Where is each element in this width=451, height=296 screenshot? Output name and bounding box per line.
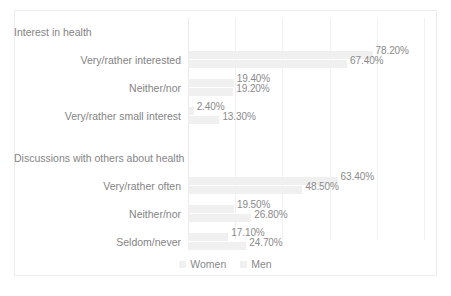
chart-group-row: Interest in health	[188, 18, 424, 46]
chart-group-row: Discussions with others about health	[188, 144, 424, 172]
bar-men	[188, 214, 251, 222]
data-label-women: 2.40%	[197, 101, 225, 112]
legend-item-men[interactable]: Men	[240, 258, 271, 270]
chart-rows: Interest in healthVery/rather interested…	[188, 18, 424, 240]
bar-pair: 17.10%24.70%	[188, 228, 424, 256]
data-label-men: 19.20%	[236, 83, 269, 94]
chart-data-row: Neither/nor19.50%26.80%	[188, 200, 424, 228]
gridline-100	[424, 18, 425, 240]
category-label: Very/rather often	[103, 172, 188, 200]
chart-data-row: Very/rather small interest2.40%13.30%	[188, 102, 424, 130]
group-label: Discussions with others about health	[14, 144, 184, 172]
bar-men	[188, 186, 302, 194]
group-label: Interest in health	[14, 18, 92, 46]
plot-area: Interest in healthVery/rather interested…	[188, 18, 424, 240]
bar-men	[188, 60, 347, 68]
category-label: Very/rather small interest	[65, 102, 188, 130]
legend-swatch-icon	[179, 261, 186, 268]
bar-pair: 63.40%48.50%	[188, 172, 424, 200]
chart-data-row: Seldom/never17.10%24.70%	[188, 228, 424, 256]
data-label-men: 13.30%	[222, 111, 255, 122]
chart-data-row: Very/rather often63.40%48.50%	[188, 172, 424, 200]
legend-label: Men	[251, 258, 271, 270]
legend-label: Women	[190, 258, 226, 270]
category-label: Neither/nor	[129, 74, 188, 102]
bar-women	[188, 233, 228, 241]
bar-women	[188, 107, 194, 115]
chart-data-row: Very/rather interested78.20%67.40%	[188, 46, 424, 74]
chart-legend: WomenMen	[0, 258, 451, 270]
legend-swatch-icon	[240, 261, 247, 268]
bar-chart: Interest in healthVery/rather interested…	[0, 0, 451, 296]
data-label-men: 26.80%	[254, 209, 287, 220]
category-label: Very/rather interested	[81, 46, 188, 74]
bar-pair: 19.50%26.80%	[188, 200, 424, 228]
data-label-men: 24.70%	[249, 237, 282, 248]
bar-women	[188, 79, 234, 87]
bar-men	[188, 88, 233, 96]
data-label-women: 63.40%	[341, 171, 374, 182]
bar-pair: 2.40%13.30%	[188, 102, 424, 130]
category-label: Neither/nor	[129, 200, 188, 228]
bar-men	[188, 242, 246, 250]
data-label-men: 48.50%	[305, 181, 338, 192]
bar-women	[188, 51, 373, 59]
bar-pair: 19.40%19.20%	[188, 74, 424, 102]
data-label-men: 67.40%	[350, 55, 383, 66]
bar-men	[188, 116, 219, 124]
chart-data-row: Neither/nor19.40%19.20%	[188, 74, 424, 102]
category-label: Seldom/never	[116, 228, 188, 256]
bar-pair: 78.20%67.40%	[188, 46, 424, 74]
legend-item-women[interactable]: Women	[179, 258, 226, 270]
bar-women	[188, 205, 234, 213]
